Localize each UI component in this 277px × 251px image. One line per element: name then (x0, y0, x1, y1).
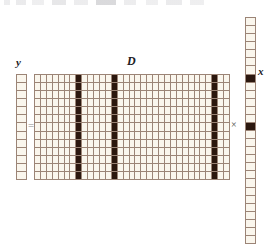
matrix-cell (124, 172, 129, 179)
matrix-cell (177, 91, 182, 98)
label-d: D (127, 55, 136, 67)
matrix-cell (189, 148, 194, 155)
matrix-cell (100, 132, 105, 139)
matrix-cell (112, 99, 117, 106)
matrix-cell (94, 172, 99, 179)
matrix-cell (183, 164, 188, 171)
matrix-cell (141, 148, 146, 155)
matrix-cell (246, 163, 255, 170)
matrix-cell (135, 172, 140, 179)
matrix-cell (88, 123, 93, 130)
matrix-cell (118, 140, 123, 147)
matrix-cell (59, 156, 64, 163)
matrix-cell (41, 132, 46, 139)
matrix-cell (206, 172, 211, 179)
matrix-cell (59, 164, 64, 171)
matrix-cell (76, 140, 81, 147)
matrix-cell (153, 99, 158, 106)
matrix-cell (147, 156, 152, 163)
matrix-cell (76, 115, 81, 122)
matrix-cell (246, 99, 255, 106)
matrix-cell (124, 140, 129, 147)
matrix-cell (147, 83, 152, 90)
matrix-cell (59, 140, 64, 147)
matrix-cell (206, 148, 211, 155)
matrix-cell (41, 83, 46, 90)
matrix-cell (246, 179, 255, 186)
matrix-cell (88, 148, 93, 155)
matrix-cell (41, 91, 46, 98)
matrix-cell (35, 75, 40, 82)
matrix-cell (70, 172, 75, 179)
matrix-cell (246, 18, 255, 25)
matrix-cell (153, 172, 158, 179)
matrix-cell (159, 156, 164, 163)
matrix-cell (130, 156, 135, 163)
matrix-cell (112, 83, 117, 90)
matrix-cell (82, 75, 87, 82)
matrix-cell (153, 156, 158, 163)
matrix-cell (70, 156, 75, 163)
matrix-cell (88, 99, 93, 106)
matrix-cell (17, 83, 26, 90)
matrix-cell (41, 172, 46, 179)
matrix-cell (17, 115, 26, 122)
matrix-cell (35, 140, 40, 147)
matrix-cell (17, 172, 26, 179)
matrix-cell (159, 123, 164, 130)
matrix-cell (171, 91, 176, 98)
matrix-cell (35, 107, 40, 114)
matrix-cell (224, 115, 229, 122)
matrix-cell (76, 123, 81, 130)
matrix-cell (159, 132, 164, 139)
matrix-cell (47, 123, 52, 130)
matrix-cell (53, 91, 58, 98)
matrix-cell (147, 107, 152, 114)
matrix-cell (124, 107, 129, 114)
matrix-cell (76, 132, 81, 139)
matrix-cell (17, 99, 26, 106)
matrix-cell (41, 148, 46, 155)
matrix-cell (147, 148, 152, 155)
matrix-cell (47, 75, 52, 82)
matrix-cell (200, 91, 205, 98)
matrix-cell (65, 107, 70, 114)
matrix-cell (195, 172, 200, 179)
matrix-cell (118, 132, 123, 139)
matrix-cell (224, 140, 229, 147)
y-vector-grid (16, 74, 27, 180)
matrix-cell (70, 115, 75, 122)
matrix-cell (165, 148, 170, 155)
matrix-cell (82, 172, 87, 179)
matrix-cell (153, 83, 158, 90)
matrix-cell (82, 99, 87, 106)
matrix-cell (124, 75, 129, 82)
matrix-cell (165, 75, 170, 82)
matrix-cell (218, 148, 223, 155)
matrix-cell (246, 66, 255, 73)
matrix-cell (153, 75, 158, 82)
matrix-cell (165, 156, 170, 163)
matrix-cell (189, 99, 194, 106)
matrix-cell (35, 148, 40, 155)
matrix-cell (135, 140, 140, 147)
matrix-cell (212, 115, 217, 122)
matrix-cell (246, 115, 255, 122)
matrix-cell (47, 91, 52, 98)
matrix-cell (171, 140, 176, 147)
matrix-cell (218, 164, 223, 171)
matrix-cell (100, 107, 105, 114)
matrix-cell (206, 83, 211, 90)
matrix-cell (177, 164, 182, 171)
matrix-cell (35, 123, 40, 130)
matrix-cell (246, 42, 255, 49)
matrix-cell (224, 83, 229, 90)
matrix-cell (171, 75, 176, 82)
matrix-cell (200, 132, 205, 139)
matrix-cell (130, 115, 135, 122)
matrix-cell (177, 115, 182, 122)
matrix-cell (246, 83, 255, 90)
matrix-cell (135, 83, 140, 90)
matrix-cell (177, 107, 182, 114)
matrix-cell (171, 83, 176, 90)
